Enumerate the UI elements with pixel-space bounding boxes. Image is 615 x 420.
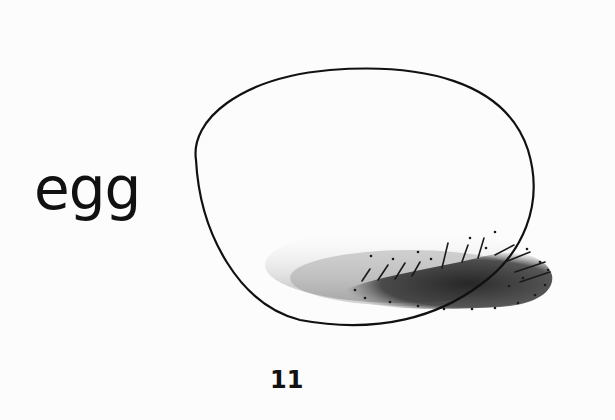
page-number: 11: [270, 366, 303, 394]
egg-illustration-icon: [0, 0, 615, 420]
book-page: egg: [0, 0, 615, 420]
